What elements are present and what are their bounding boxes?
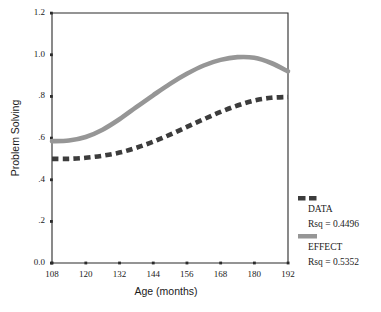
legend-entry-effect: EFFECT Rsq = 0.5352 <box>298 234 359 267</box>
y-tick-label: .8 <box>38 90 45 100</box>
chart-container: 0.0.2.4.6.81.01.2 1081201321441561681801… <box>0 0 381 312</box>
y-tick-mark <box>50 220 53 223</box>
series-effect <box>52 57 288 141</box>
y-tick-label: 1.0 <box>34 49 46 59</box>
legend-entry-data: DATA Rsq = 0.4496 <box>298 196 359 229</box>
y-tick-mark <box>50 12 53 15</box>
x-tick-label: 168 <box>214 269 228 279</box>
x-axis-tick-labels: 108120132144156168180192 <box>45 269 295 279</box>
y-tick-label: .6 <box>38 132 45 142</box>
chart-legend: DATA Rsq = 0.4496 EFFECT Rsq = 0.5352 <box>298 196 359 267</box>
legend-label-effect: EFFECT <box>308 242 343 252</box>
y-tick-mark <box>50 53 53 56</box>
x-tick-label: 192 <box>281 269 295 279</box>
x-tick-label: 156 <box>180 269 194 279</box>
x-tick-label: 180 <box>248 269 262 279</box>
y-tick-label: 0.0 <box>34 257 46 267</box>
x-tick-label: 144 <box>146 269 160 279</box>
x-tick-mark <box>118 262 121 265</box>
x-axis-title: Age (months) <box>134 285 197 297</box>
x-tick-mark <box>186 262 189 265</box>
x-tick-mark <box>51 262 54 265</box>
y-axis-title: Problem Solving <box>9 100 21 177</box>
legend-dashed-swatch-b <box>309 196 317 201</box>
y-tick-label: .4 <box>38 174 45 184</box>
x-tick-mark <box>219 262 222 265</box>
legend-solid-swatch <box>298 234 317 239</box>
y-tick-mark <box>50 95 53 98</box>
chart-svg: 0.0.2.4.6.81.01.2 1081201321441561681801… <box>0 0 381 312</box>
x-tick-label: 132 <box>113 269 127 279</box>
x-tick-mark <box>253 262 256 265</box>
legend-dashed-swatch-a <box>298 196 306 201</box>
y-axis-tick-labels: 0.0.2.4.6.81.01.2 <box>34 7 46 267</box>
x-tick-label: 108 <box>45 269 59 279</box>
data-line <box>52 97 288 159</box>
y-tick-label: 1.2 <box>34 7 45 17</box>
effect-line <box>52 57 288 141</box>
legend-rsq-data: Rsq = 0.4496 <box>308 219 359 229</box>
legend-rsq-effect: Rsq = 0.5352 <box>308 257 359 267</box>
y-tick-mark <box>50 178 53 181</box>
x-tick-mark <box>84 262 87 265</box>
x-tick-label: 120 <box>79 269 93 279</box>
y-tick-label: .2 <box>38 215 45 225</box>
x-tick-mark <box>287 262 290 265</box>
x-tick-mark <box>152 262 155 265</box>
series-data <box>52 97 288 159</box>
legend-label-data: DATA <box>308 204 333 214</box>
